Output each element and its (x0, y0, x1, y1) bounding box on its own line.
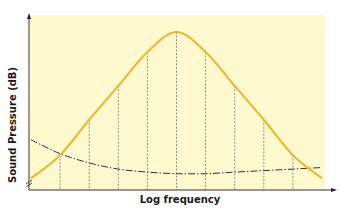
y-axis-label-text: Sound Pressure (dB) (7, 67, 18, 183)
x-axis-arrow-icon (331, 188, 337, 192)
chart (0, 0, 341, 211)
x-axis-label: Log frequency (130, 194, 230, 205)
y-axis-label: Sound Pressure (dB) (2, 60, 22, 190)
plot-background (30, 15, 325, 190)
